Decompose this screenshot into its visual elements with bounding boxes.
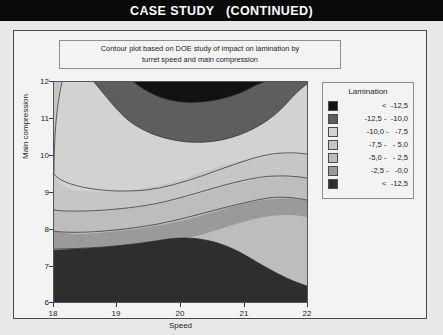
y-tick-mark-11 [49,118,53,119]
legend-item-label: -12,5 - -10,0 [338,114,408,123]
y-tick-label-11: 11 [31,114,49,123]
legend-swatch-icon [328,127,338,137]
plot-title-line-1: Contour plot based on DOE study of impac… [101,44,299,53]
legend-swatch-icon [328,166,338,176]
legend-item: -5,0 - - 2,5 [323,151,413,164]
y-tick-mark-8 [49,229,53,230]
legend-item: -12,5 - -10,0 [323,112,413,125]
y-tick-label-8: 8 [31,225,49,234]
x-tick-mark-21 [244,303,245,307]
x-tick-label-20: 20 [170,309,190,318]
page-title: CASE STUDY (CONTINUED) [130,4,313,18]
header-banner: CASE STUDY (CONTINUED) [0,0,443,21]
x-tick-label-18: 18 [43,309,63,318]
x-tick-mark-19 [116,303,117,307]
page-body: Contour plot based on DOE study of impac… [0,21,443,335]
plot-title-text: Contour plot based on DOE study of impac… [97,44,303,65]
legend-item-label: -10,0 - -7,5 [338,127,408,136]
y-tick-label-7: 7 [31,262,49,271]
x-tick-mark-20 [180,303,181,307]
legend-item-label: -2,5 - -0,0 [338,166,408,175]
x-tick-label-21: 21 [234,309,254,318]
y-tick-label-10: 10 [31,151,49,160]
x-tick-label-19: 19 [106,309,126,318]
legend-swatch-icon [328,114,338,124]
legend-swatch-icon [328,153,338,163]
x-tick-label-22: 22 [297,309,317,318]
legend-item: -10,0 - -7,5 [323,125,413,138]
y-tick-label-9: 9 [31,188,49,197]
x-axis-title: Speed [53,321,308,330]
legend-swatch-icon [328,101,338,111]
y-tick-label-12: 12 [31,77,49,86]
legend-swatch-icon [328,140,338,150]
y-tick-label-6: 6 [31,298,49,307]
contour-plot-area [53,81,308,303]
legend-item: < -12,5 [323,99,413,112]
legend-title: Lamination [323,87,413,96]
chart-panel: Contour plot based on DOE study of impac… [13,30,427,319]
plot-title-line-2: turret speed and main compression [142,55,258,64]
y-tick-mark-10 [49,155,53,156]
x-tick-mark-22 [307,303,308,307]
plot-title-box: Contour plot based on DOE study of impac… [59,40,341,69]
x-tick-mark-18 [53,303,54,307]
legend-item: < -12,5 [323,177,413,190]
legend-item-label: -5,0 - - 2,5 [338,153,408,162]
y-axis-title: Main compression [21,94,30,159]
legend-item: -2,5 - -0,0 [323,164,413,177]
legend-item-label: < -12,5 [338,101,408,110]
y-tick-mark-9 [49,192,53,193]
legend-box: Lamination < -12,5 -12,5 - -10,0 -10,0 -… [322,82,414,199]
legend-item-label: < -12,5 [338,179,408,188]
legend-swatch-icon [328,179,338,189]
contour-svg [54,82,307,302]
legend-item-label: -7,5 - - 5,0 [338,140,408,149]
y-tick-mark-12 [49,81,53,82]
y-tick-mark-7 [49,266,53,267]
legend-item: -7,5 - - 5,0 [323,138,413,151]
